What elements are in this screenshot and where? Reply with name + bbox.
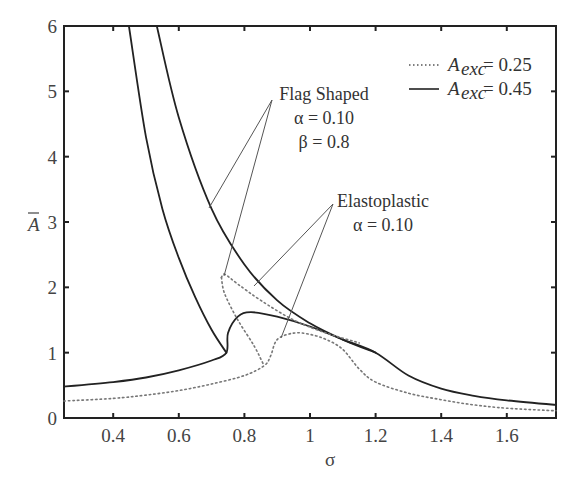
legend-item-solid: A exc = 0.45 (409, 78, 532, 103)
svg-text:= 0.25: = 0.25 (483, 54, 532, 75)
x-tick-label: 0.4 (101, 425, 125, 446)
x-tick-labels: 0.40.60.811.21.41.6 (101, 425, 518, 446)
x-tick-label: 1.2 (364, 425, 388, 446)
y-tick-label: 2 (48, 277, 58, 298)
series-solid-line (64, 312, 556, 405)
svg-text:Flag Shaped: Flag Shaped (279, 84, 369, 104)
y-tick-labels: 0123456 (48, 16, 58, 429)
svg-text:α = 0.10: α = 0.10 (353, 215, 413, 235)
y-axis-label: A (26, 213, 40, 235)
y-tick-label: 1 (48, 343, 58, 364)
series-dotted-line (221, 278, 264, 366)
svg-text:A: A (446, 54, 460, 75)
series-solid-line (129, 26, 227, 353)
svg-text:β = 0.8: β = 0.8 (299, 132, 350, 152)
x-tick-label: 1.6 (495, 425, 519, 446)
legend: A exc = 0.25 A exc = 0.45 (409, 54, 532, 103)
chart: 0.40.60.811.21.41.6 0123456 σ A Flag Sha… (0, 0, 575, 479)
y-tick-label: 4 (48, 147, 58, 168)
annotation-flag-shaped: Flag Shaped α = 0.10 β = 0.8 (279, 84, 369, 152)
x-tick-label: 1.4 (429, 425, 453, 446)
svg-text:= 0.45: = 0.45 (483, 78, 532, 99)
annotation-elastoplastic: Elastoplastic α = 0.10 (337, 191, 429, 235)
svg-text:Elastoplastic: Elastoplastic (337, 191, 429, 211)
x-tick-label: 0.6 (167, 425, 191, 446)
svg-text:A: A (26, 214, 40, 235)
y-tick-label: 6 (48, 16, 58, 37)
svg-text:α = 0.10: α = 0.10 (294, 108, 354, 128)
series-dotted-line (64, 333, 556, 411)
svg-text:A: A (446, 78, 460, 99)
y-tick-label: 5 (48, 81, 58, 102)
y-tick-label: 0 (48, 408, 58, 429)
x-axis-label: σ (325, 449, 335, 470)
legend-item-dotted: A exc = 0.25 (409, 54, 532, 79)
x-tick-label: 1 (305, 425, 315, 446)
x-tick-label: 0.8 (233, 425, 257, 446)
series-solid-line (157, 26, 376, 353)
y-tick-label: 3 (48, 212, 58, 233)
series-dotted-line (221, 274, 359, 343)
